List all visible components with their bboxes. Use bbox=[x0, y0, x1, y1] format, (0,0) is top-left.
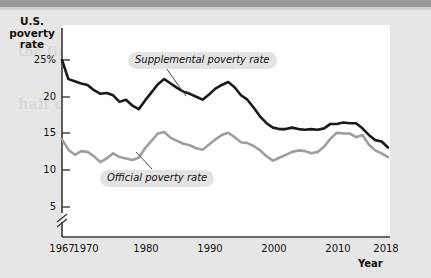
line-official-poverty-rate bbox=[62, 132, 388, 162]
data-series-group bbox=[62, 60, 388, 162]
y-tick-marks bbox=[62, 60, 70, 207]
figure-container: the first line of text bleeding through … bbox=[0, 0, 431, 278]
leader-line-official bbox=[136, 152, 152, 169]
chart-plot-area bbox=[0, 0, 431, 278]
callout-official-poverty-rate: Official poverty rate bbox=[100, 170, 214, 187]
callout-supplemental-poverty-rate: Supplemental poverty rate bbox=[128, 52, 277, 69]
